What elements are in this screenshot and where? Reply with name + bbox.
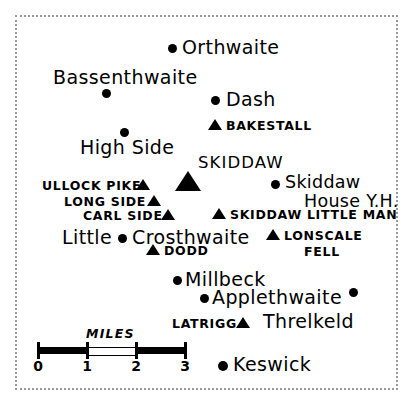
fell-triangle-icon bbox=[147, 195, 161, 206]
fell-triangle-icon bbox=[175, 171, 201, 191]
settlement-dot-icon bbox=[349, 288, 358, 297]
fell-label-bakestall: BAKESTALL bbox=[226, 118, 312, 133]
scale-tick-label-3: 3 bbox=[180, 358, 190, 374]
settlement-dot-icon bbox=[102, 89, 111, 98]
fell-triangle-icon bbox=[146, 244, 160, 255]
settlement-dot-icon bbox=[168, 44, 177, 53]
scale-tick-mark bbox=[184, 342, 187, 359]
settlement-label-orthwaite: Orthwaite bbox=[182, 36, 279, 58]
settlement-dot-icon bbox=[211, 96, 220, 105]
fell-label-dodd: DODD bbox=[164, 243, 209, 258]
settlement-label-threlkeld: Threlkeld bbox=[263, 310, 354, 332]
fell-triangle-icon bbox=[136, 179, 150, 190]
settlement-dot-icon bbox=[120, 128, 129, 137]
scale-bar-segment bbox=[38, 347, 87, 354]
settlement-dot-icon bbox=[118, 234, 127, 243]
fell-label-lonscale: LONSCALE bbox=[284, 228, 363, 243]
settlement-dot-icon bbox=[173, 276, 182, 285]
map-canvas: Orthwaite Bassenthwaite Dash BAKESTALL H… bbox=[0, 0, 418, 405]
scale-bar-segment bbox=[87, 347, 136, 356]
fell-triangle-icon bbox=[212, 208, 226, 219]
settlement-label-little: Little bbox=[62, 226, 112, 248]
settlement-label-bassenthwaite: Bassenthwaite bbox=[53, 66, 198, 88]
scale-tick-mark bbox=[37, 342, 40, 359]
scale-tick-mark bbox=[135, 342, 138, 359]
fell-triangle-icon bbox=[208, 119, 222, 130]
scale-bar-segment bbox=[137, 347, 186, 354]
fell-label-long-side: LONG SIDE bbox=[64, 194, 146, 209]
fell-label-latrigg: LATRIGG bbox=[172, 316, 237, 331]
fell-triangle-icon bbox=[236, 317, 250, 328]
fell-label-fell: FELL bbox=[304, 244, 340, 259]
fell-label-ullock-pike: ULLOCK PIKE bbox=[42, 178, 141, 193]
fell-triangle-icon bbox=[266, 229, 280, 240]
scale-bar-track bbox=[38, 347, 186, 354]
settlement-dot-icon bbox=[218, 361, 228, 371]
fell-label-carl-side: CARL SIDE bbox=[83, 208, 163, 223]
settlement-label-keswick: Keswick bbox=[233, 353, 311, 375]
settlement-label-skiddaw: Skiddaw bbox=[285, 172, 360, 192]
scale-tick-mark bbox=[86, 342, 89, 359]
scale-tick-label-2: 2 bbox=[131, 358, 141, 374]
settlement-dot-icon bbox=[200, 294, 209, 303]
settlement-label-high-side: High Side bbox=[80, 136, 174, 158]
settlement-dot-icon bbox=[271, 180, 280, 189]
fell-triangle-icon bbox=[161, 209, 175, 220]
scale-tick-label-0: 0 bbox=[33, 358, 43, 374]
scale-tick-label-1: 1 bbox=[82, 358, 92, 374]
settlement-label-dash: Dash bbox=[226, 88, 276, 110]
fell-label-skiddaw: SKIDDAW bbox=[198, 153, 284, 172]
settlement-label-applethwaite: Applethwaite bbox=[212, 286, 342, 308]
scale-bar-title: MILES bbox=[86, 326, 135, 341]
fell-label-skiddaw-little-man: SKIDDAW LITTLE MAN bbox=[230, 207, 397, 222]
